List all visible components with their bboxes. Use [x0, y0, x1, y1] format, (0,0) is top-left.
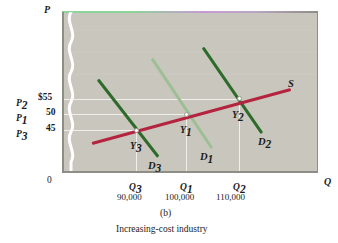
- scan-band: [63, 52, 318, 53]
- x-axis: [62, 171, 318, 173]
- x-axis-label: Q: [324, 176, 331, 187]
- y-axis-scale-break: [62, 12, 80, 172]
- equilibrium-point-y1: [184, 112, 189, 117]
- quantity-symbol-q2: Q: [233, 182, 240, 192]
- point-label-y1: Y1: [180, 119, 192, 138]
- price-label-p3: P3: [16, 123, 28, 142]
- equilibrium-point-y3: [134, 128, 139, 133]
- curve-label-d2: D2: [258, 131, 271, 150]
- price-value-p3: 45: [46, 123, 56, 133]
- curve-subscript-d2: 2: [266, 138, 272, 150]
- quantity-symbol-q3: Q: [129, 182, 136, 192]
- point-label-y2: Y2: [232, 104, 244, 123]
- quantity-value-q2: 110,000: [216, 192, 245, 202]
- curve-symbol-d1: D: [200, 151, 208, 162]
- figure-caption: Increasing-cost industry: [116, 224, 208, 234]
- curve-symbol-d2: D: [258, 136, 266, 147]
- origin-label: 0: [47, 175, 52, 185]
- quantity-value-q3: 90,000: [117, 192, 142, 202]
- y-axis-label: P: [44, 4, 50, 15]
- y-axis: [62, 12, 64, 173]
- point-subscript-y1: 1: [186, 126, 192, 138]
- price-value-p1: 50: [46, 107, 56, 117]
- curve-label-d1: D1: [200, 146, 213, 165]
- scan-band: [63, 30, 318, 31]
- figure-increasing-cost-industry: P Q 0 P2 $55 P1 50 P3 45 Q3 90,000 Q1 10…: [0, 0, 338, 243]
- curve-symbol-s: S: [288, 78, 294, 89]
- curve-symbol-d3: D: [148, 160, 156, 171]
- price-value-p2: $55: [38, 92, 52, 102]
- panel-label: (b): [160, 208, 171, 218]
- curve-subscript-d3: 3: [156, 162, 162, 174]
- scan-band: [63, 74, 318, 75]
- plot-top-edge-tint: [62, 11, 318, 13]
- quantity-value-q1: 100,000: [165, 192, 194, 202]
- point-subscript-y3: 3: [136, 142, 142, 154]
- point-subscript-y2: 2: [238, 111, 244, 123]
- equilibrium-point-y2: [237, 96, 242, 101]
- price-subscript-p3: 3: [22, 130, 28, 142]
- curve-label-d3: D3: [148, 155, 161, 174]
- curve-label-s: S: [288, 78, 294, 89]
- curve-subscript-d1: 1: [208, 153, 214, 165]
- quantity-symbol-q1: Q: [180, 182, 187, 192]
- gridline-p2: [63, 99, 240, 100]
- point-label-y3: Y3: [130, 135, 142, 154]
